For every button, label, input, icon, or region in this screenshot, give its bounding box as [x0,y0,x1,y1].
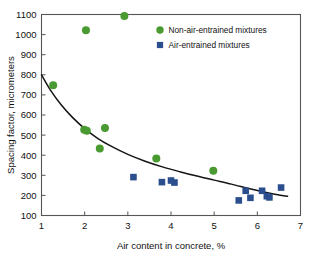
x-tick-label: 6 [255,220,260,231]
y-tick-label: 1100 [16,9,36,20]
x-tick-label: 5 [212,220,217,231]
x-tick-label: 2 [82,220,87,231]
y-tick-label: 400 [21,150,37,161]
y-tick-label: 800 [21,69,37,80]
scatter-plot: 10020030040050060070080090010001100 1234… [0,0,313,256]
y-tick-label: 500 [21,130,37,141]
chart-background [0,0,313,256]
data-point-square [266,194,273,201]
x-axis-title: Air content in concrete, % [117,240,226,251]
y-tick-label: 600 [21,109,37,120]
y-tick-label: 200 [21,190,37,201]
data-point-circle [209,167,217,175]
x-tick-label: 3 [125,220,130,231]
data-point-circle [96,145,104,153]
data-point-square [242,187,249,194]
data-point-circle [120,12,128,20]
y-axis-title: Spacing factor, micrometers [5,56,16,174]
data-point-circle [83,127,91,135]
y-tick-label: 100 [21,210,37,221]
data-point-square [235,197,242,204]
chart-container: 10020030040050060070080090010001100 1234… [0,0,313,256]
y-tick-label: 700 [21,89,37,100]
y-tick-label: 900 [21,49,37,60]
data-point-square [247,195,254,202]
data-point-square [278,184,285,191]
legend-marker-square [157,42,163,48]
data-point-circle [49,81,57,89]
x-tick-label: 1 [39,220,44,231]
x-tick-label: 4 [168,220,173,231]
data-point-circle [82,26,90,34]
data-point-square [159,179,166,186]
legend-label: Air-entrained mixtures [169,40,250,50]
x-tick-label: 7 [298,220,303,231]
legend-label: Non-air-entrained mixtures [169,25,267,35]
data-point-square [130,174,137,181]
y-tick-label: 1000 [15,29,36,40]
y-tick-label: 300 [21,170,37,181]
data-point-square [171,179,178,186]
data-point-circle [152,154,160,162]
legend-marker-circle [156,26,163,33]
data-point-circle [101,124,109,132]
